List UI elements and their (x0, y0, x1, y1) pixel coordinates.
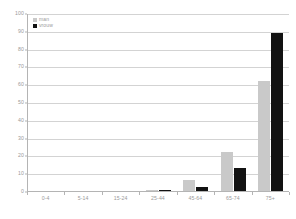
bar-man (146, 190, 158, 191)
x-axis-tick-label: 0-4 (27, 196, 64, 210)
bar-man (183, 180, 195, 191)
y-axis-tick-label: 60 (18, 83, 24, 88)
x-axis-tick (139, 192, 140, 195)
y-axis-tick-label: 10 (18, 172, 24, 177)
bar-chart: 0102030405060708090100 0-45-1415-2425-44… (0, 0, 296, 219)
x-axis-tick (102, 192, 103, 195)
y-axis-tick (25, 14, 27, 15)
x-axis-tick-label: 65-74 (214, 196, 251, 210)
legend-label: vrouw (39, 23, 53, 28)
y-axis-tick (25, 67, 27, 68)
x-axis-labels: 0-45-1415-2425-4445-6465-7475+ (27, 196, 289, 210)
bar-group (252, 14, 289, 191)
bar-group (214, 14, 251, 191)
y-axis-tick (25, 192, 27, 193)
bar-man (258, 81, 270, 191)
y-axis-tick (25, 31, 27, 32)
bar-man (221, 152, 233, 191)
x-axis-tick (214, 192, 215, 195)
x-axis-tick (177, 192, 178, 195)
bar-vrouw (196, 187, 208, 191)
bar-vrouw (234, 168, 246, 191)
y-axis-labels: 0102030405060708090100 (0, 14, 24, 192)
legend-swatch-icon (33, 18, 37, 22)
y-axis-tick-label: 50 (18, 100, 24, 105)
y-axis-tick-label: 80 (18, 47, 24, 52)
y-axis-tick (25, 85, 27, 86)
x-axis-tick-label: 5-14 (64, 196, 101, 210)
y-axis-tick-label: 20 (18, 154, 24, 159)
y-axis-tick-label: 70 (18, 65, 24, 70)
bar-group (28, 14, 65, 191)
bar-group (177, 14, 214, 191)
bar-vrouw (159, 190, 171, 191)
bar-group (103, 14, 140, 191)
x-axis-tick (27, 192, 28, 195)
x-axis-tick (289, 192, 290, 195)
y-axis-tick (25, 156, 27, 157)
y-axis-tick (25, 138, 27, 139)
y-axis-tick-label: 100 (15, 11, 24, 16)
x-axis-tick-label: 25-44 (139, 196, 176, 210)
x-axis-tick-label: 45-64 (177, 196, 214, 210)
x-axis-tick-label: 15-24 (102, 196, 139, 210)
y-axis-tick (25, 49, 27, 50)
x-axis-tick (252, 192, 253, 195)
bar-groups (28, 14, 289, 191)
y-axis-tick-label: 40 (18, 118, 24, 123)
chart-legend: manvrouw (31, 15, 57, 30)
bar-group (140, 14, 177, 191)
y-axis-tick-label: 30 (18, 136, 24, 141)
x-axis-tick-label: 75+ (252, 196, 289, 210)
legend-swatch-icon (33, 24, 37, 28)
y-axis-tick (25, 174, 27, 175)
bar-group (65, 14, 102, 191)
bar-vrouw (271, 33, 283, 191)
y-axis-tick (25, 120, 27, 121)
y-axis-tick-label: 90 (18, 29, 24, 34)
plot-area (27, 14, 289, 192)
y-axis-tick (25, 103, 27, 104)
y-axis-tick-label: 0 (21, 189, 24, 194)
legend-item-vrouw[interactable]: vrouw (33, 23, 53, 28)
x-axis-tick (64, 192, 65, 195)
